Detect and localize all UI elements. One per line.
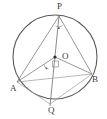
vertex-label-Q: Q bbox=[48, 106, 55, 115]
right-angle-square-at-O bbox=[53, 61, 59, 67]
vertex-label-B: B bbox=[92, 75, 98, 84]
vertex-label-A: A bbox=[10, 84, 17, 93]
center-point-O bbox=[53, 55, 56, 58]
segment-AQ bbox=[17, 82, 50, 104]
angle-arc-at-P bbox=[56, 26, 63, 27]
geometry-figure: P O A B Q bbox=[0, 0, 107, 119]
geometry-canvas bbox=[0, 0, 107, 119]
angle-dot-left-of-O bbox=[46, 68, 48, 70]
segment-QB bbox=[50, 74, 92, 104]
vertex-label-P: P bbox=[57, 2, 62, 11]
segment-AB bbox=[17, 74, 92, 82]
segment-PA bbox=[17, 16, 59, 82]
vertex-label-O: O bbox=[62, 52, 69, 61]
segment-PB bbox=[59, 16, 92, 74]
angle-dot-at-P bbox=[58, 27, 60, 29]
segment-OB bbox=[55, 57, 92, 74]
